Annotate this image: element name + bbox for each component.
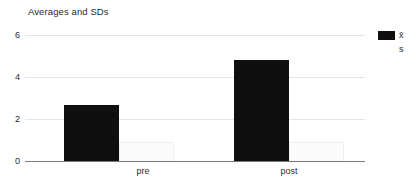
gridline-4 <box>25 77 365 78</box>
legend: x̄ s <box>378 28 416 56</box>
bar-pre-sd[interactable] <box>119 142 174 161</box>
legend-swatch-mean-icon <box>378 31 395 40</box>
plot-area <box>25 35 365 161</box>
y-tick-label-4: 4 <box>4 73 20 82</box>
chart-container: Averages and SDs 6 4 2 0 pre post x̄ s <box>0 0 416 189</box>
chart-title: Averages and SDs <box>28 6 109 17</box>
bar-post-mean[interactable] <box>234 60 289 161</box>
x-tick-label-pre: pre <box>136 166 149 176</box>
y-tick-label-2: 2 <box>4 115 20 124</box>
bar-pre-mean[interactable] <box>64 105 119 161</box>
y-axis: 6 4 2 0 <box>0 35 20 161</box>
legend-item-sd[interactable]: s <box>378 42 416 56</box>
legend-swatch-sd-icon <box>378 45 395 54</box>
y-tick-label-0: 0 <box>4 157 20 166</box>
bar-post-sd[interactable] <box>289 142 344 161</box>
legend-label-mean: x̄ <box>399 31 404 40</box>
gridline-6 <box>25 35 365 36</box>
x-axis-line <box>25 161 365 162</box>
x-tick-label-post: post <box>280 166 297 176</box>
legend-item-mean[interactable]: x̄ <box>378 28 416 42</box>
y-tick-label-6: 6 <box>4 31 20 40</box>
legend-label-sd: s <box>399 45 404 54</box>
